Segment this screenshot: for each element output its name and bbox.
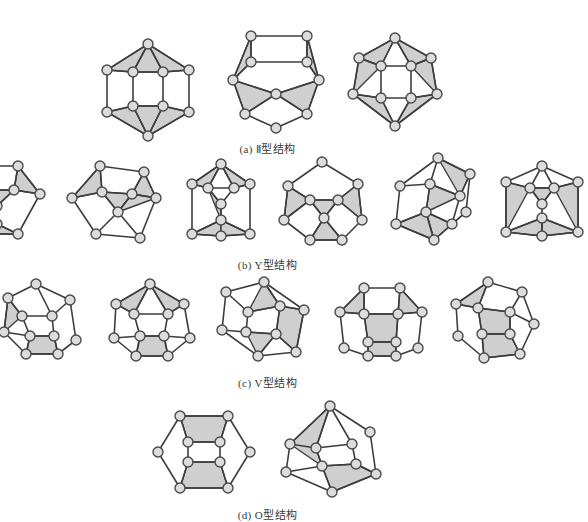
structure-c-5-node-9: [477, 329, 487, 339]
structure-c-4-node-10: [363, 337, 373, 347]
structure-c-4-node-4: [339, 343, 349, 353]
structure-b-2-node-1: [139, 167, 149, 177]
structure-c-1-node-7: [17, 311, 27, 321]
structure-d-1-edge-4: [228, 452, 250, 488]
structure-c-3-edge-5: [258, 352, 296, 356]
structure-d-1-edge-2: [228, 416, 250, 452]
structure-b-1-node-7: [9, 185, 19, 195]
structure-c-5-node-10: [505, 329, 515, 339]
row-c-structures: [0, 268, 535, 372]
structure-c-1-node-2: [65, 295, 75, 305]
structure-c-1-node-3: [0, 327, 9, 337]
structure-d-1-node-5: [223, 483, 233, 493]
structure-c-2-node-6: [163, 351, 173, 361]
structure-d-2: [266, 392, 394, 504]
structure-b-5-graph: [380, 144, 486, 254]
structure-a-1-node-9: [158, 101, 168, 111]
structure-b-2-node-2: [67, 193, 77, 203]
structure-b-3-node-7: [229, 183, 239, 193]
structure-c-5-graph: [438, 268, 550, 372]
structure-d-1-node-6: [183, 437, 193, 447]
structure-a-3-node-4: [432, 89, 442, 99]
structure-d-1: [142, 400, 266, 504]
structure-d-1-node-0: [175, 411, 185, 421]
structure-b-5-node-4: [461, 207, 471, 217]
structure-b-2-node-0: [95, 161, 105, 171]
structure-b-2-node-3: [151, 193, 161, 203]
structure-d-1-graph: [142, 400, 266, 504]
structure-b-5-edge-2: [396, 186, 400, 224]
structure-d-1-node-7: [215, 437, 225, 447]
structure-a-3-node-1: [354, 53, 364, 63]
structure-b-1-graph: [0, 150, 56, 254]
structure-c-4-node-0: [359, 283, 369, 293]
structure-a-3-node-0: [390, 33, 400, 43]
structure-d-2-node-9: [351, 459, 361, 469]
structure-b-6-node-9: [537, 231, 547, 241]
structure-c-2-node-3: [109, 333, 119, 343]
structure-b-5-node-2: [465, 169, 475, 179]
structure-d-2-node-2: [365, 427, 375, 437]
structure-d-1-node-2: [153, 447, 163, 457]
row-d: (d) O型结构: [0, 392, 535, 522]
structure-c-1-node-8: [47, 311, 57, 321]
structure-a-1: [83, 26, 213, 138]
structure-c-4-node-6: [363, 351, 373, 361]
structure-b-5-node-5: [429, 235, 439, 245]
structure-c-5-node-6: [515, 349, 525, 359]
structure-b-4-node-9: [319, 213, 329, 223]
row-d-structures: [0, 392, 535, 504]
structure-c-3-node-6: [243, 307, 253, 317]
structure-c-2-node-10: [159, 331, 169, 341]
structure-c-3-node-9: [271, 329, 281, 339]
structure-d-2-node-4: [371, 469, 381, 479]
structure-c-2-node-8: [163, 309, 173, 319]
structure-d-2-node-3: [281, 467, 291, 477]
structure-b-2-node-6: [97, 187, 107, 197]
structure-c-4-node-11: [391, 337, 401, 347]
structure-d-1-edge-3: [158, 452, 180, 488]
structure-b-4-node-4: [357, 215, 367, 225]
structure-c-3-edge-0: [226, 282, 264, 292]
structure-c-2: [96, 270, 208, 372]
structure-b-6-node-0: [537, 161, 547, 171]
structure-a-1-graph: [83, 26, 213, 138]
structure-c-1-node-4: [71, 335, 81, 345]
structure-d-1-node-9: [215, 457, 225, 467]
structure-c-2-node-4: [185, 333, 195, 343]
structure-c-5-node-1: [517, 287, 527, 297]
structure-b-2-node-7: [127, 189, 137, 199]
structure-b-3-node-3: [187, 229, 197, 239]
structure-c-3-edge-2: [222, 292, 226, 330]
structure-b-2: [56, 148, 174, 254]
structure-d-2-graph: [266, 392, 394, 504]
structure-a-3-node-2: [426, 53, 436, 63]
row-b: (b) Y型结构: [0, 144, 535, 272]
structure-a-2-node-6: [271, 89, 281, 99]
structure-c-1-node-0: [31, 279, 41, 289]
structure-c-5: [438, 268, 550, 372]
structure-c-2-node-7: [129, 309, 139, 319]
structure-b-4-node-3: [279, 215, 289, 225]
structure-b-1-node-1: [13, 161, 23, 171]
structure-c-3-graph: [208, 268, 324, 372]
structure-b-5: [380, 144, 486, 254]
structure-c-5-node-3: [529, 319, 539, 329]
structure-c-4-node-2: [335, 307, 345, 317]
structure-c-4-node-8: [359, 309, 369, 319]
structure-d-2-node-1: [285, 439, 295, 449]
structure-b-3-node-8: [216, 199, 226, 209]
structure-b-3-node-6: [203, 183, 213, 193]
structure-d-2-edge-7: [330, 406, 352, 444]
structure-b-4-node-1: [283, 181, 293, 191]
structure-a-2: [213, 18, 337, 138]
structure-c-4-node-7: [391, 351, 401, 361]
structure-a-3: [337, 22, 453, 138]
structure-a-2-graph: [213, 18, 337, 138]
structure-a-2-node-4: [228, 75, 238, 85]
structure-d-2-face-0: [290, 406, 330, 466]
structure-b-4-node-0: [317, 157, 327, 167]
structure-b-6-node-8: [537, 213, 547, 223]
structure-c-4-node-5: [413, 343, 423, 353]
structure-c-5-node-8: [505, 307, 515, 317]
